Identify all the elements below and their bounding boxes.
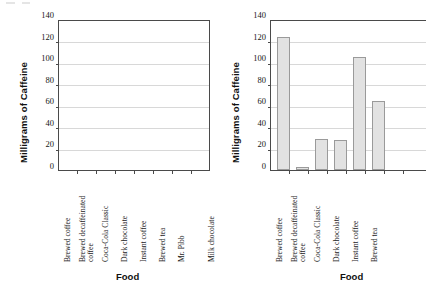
x-category-label: Mr. Pibb — [178, 235, 186, 262]
x-category-label: Brewed decaffeinatedcoffee — [79, 176, 96, 262]
x-category-label: Brewed tea — [371, 228, 379, 262]
x-axis-title-right: Food — [340, 271, 363, 282]
y-tick-label: 100 — [234, 54, 266, 62]
y-tick-label: 120 — [22, 33, 54, 41]
x-category-label: Brewed decaffeinatedcoffee — [291, 176, 308, 262]
chart-panel-right: Milligrams of Caffeine 140 120 100 80 60… — [212, 0, 424, 293]
x-category-label: Coca-Cola Classic — [314, 206, 322, 262]
bar — [277, 37, 290, 170]
bars-container-left — [59, 21, 209, 170]
bar — [334, 140, 347, 170]
bars-container-right — [271, 21, 426, 170]
x-category-label: Instant coffee — [352, 221, 360, 262]
y-tick-label: 80 — [22, 76, 54, 84]
y-tick-label: 0 — [22, 162, 54, 170]
x-category-label: Brewed tea — [159, 228, 167, 262]
y-axis-tick-labels-left: 140 120 100 80 60 40 20 0 — [22, 14, 54, 177]
x-tick-marks-left — [58, 171, 210, 175]
y-tick-label: 100 — [22, 54, 54, 62]
x-category-label: Instant coffee — [140, 221, 148, 262]
y-tick-label: 0 — [234, 162, 266, 170]
bar — [296, 167, 309, 170]
y-tick-label: 60 — [234, 97, 266, 105]
y-tick-label: 120 — [234, 33, 266, 41]
x-axis-category-labels-right: Brewed coffee Brewed decaffeinatedcoffee… — [270, 176, 426, 266]
x-category-label: Brewed coffee — [64, 218, 72, 262]
y-tick-label: 80 — [234, 76, 266, 84]
y-tick-label: 40 — [22, 119, 54, 127]
bar — [353, 57, 366, 170]
x-category-label: Dark chocolate — [333, 216, 341, 262]
x-tick-marks-right — [270, 171, 426, 175]
plot-area-right — [270, 20, 426, 171]
x-axis-category-labels-left: Brewed coffee Brewed decaffeinatedcoffee… — [58, 176, 210, 266]
y-tick-label: 20 — [234, 140, 266, 148]
y-tick-label: 140 — [22, 11, 54, 19]
y-tick-label: 20 — [22, 140, 54, 148]
x-category-label: Dark chocolate — [121, 216, 129, 262]
y-tick-label: 60 — [22, 97, 54, 105]
y-axis-tick-labels-right: 140 120 100 80 60 40 20 0 — [234, 14, 266, 177]
y-tick-label: 140 — [234, 11, 266, 19]
bar — [372, 101, 385, 170]
x-category-label: Brewed coffee — [276, 218, 284, 262]
plot-area-left — [58, 20, 210, 171]
x-category-label: Coca-Cola Classic — [102, 206, 110, 262]
y-tick-label: 40 — [234, 119, 266, 127]
x-axis-title-left: Food — [116, 271, 139, 282]
bar — [315, 139, 328, 170]
chart-panel-left: Milligrams of Caffeine 140 120 100 80 60… — [0, 0, 212, 293]
